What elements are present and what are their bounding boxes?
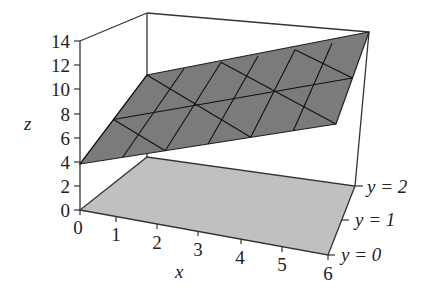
svg-text:y = 0: y = 0 <box>339 244 382 265</box>
svg-text:5: 5 <box>277 254 287 275</box>
svg-text:0: 0 <box>61 200 71 221</box>
box-edge <box>80 13 147 41</box>
plane-surface <box>80 32 369 164</box>
svg-text:4: 4 <box>61 152 71 173</box>
svg-text:2: 2 <box>152 232 162 253</box>
svg-text:3: 3 <box>193 239 203 260</box>
svg-text:12: 12 <box>51 55 70 76</box>
plot-3d: 0 2 4 6 8 10 12 14 z 0 1 2 3 4 5 6 x y =… <box>0 0 430 302</box>
svg-text:14: 14 <box>51 31 71 52</box>
base-region <box>80 157 355 255</box>
z-tick-labels: 0 2 4 6 8 10 12 14 <box>51 31 71 221</box>
svg-text:6: 6 <box>323 263 333 284</box>
x-axis-label: x <box>174 261 184 282</box>
svg-text:8: 8 <box>61 104 71 125</box>
svg-text:4: 4 <box>235 247 245 268</box>
svg-text:2: 2 <box>61 176 71 197</box>
z-axis-label: z <box>23 113 32 134</box>
svg-text:1: 1 <box>111 224 121 245</box>
svg-text:0: 0 <box>73 217 83 238</box>
z-ticks <box>74 41 80 210</box>
box-edge <box>147 13 369 32</box>
svg-text:10: 10 <box>51 79 70 100</box>
svg-text:y = 2: y = 2 <box>365 176 408 197</box>
svg-text:y = 1: y = 1 <box>353 209 395 230</box>
svg-text:6: 6 <box>61 128 71 149</box>
